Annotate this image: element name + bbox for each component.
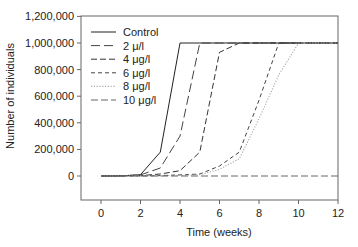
x-tick-label: 8	[256, 207, 262, 219]
y-tick-label: 600,000	[34, 90, 74, 102]
legend-label-1: 2 μ/l	[123, 40, 144, 52]
x-tick-label: 10	[292, 207, 304, 219]
x-tick-label: 0	[98, 207, 104, 219]
y-tick-label: 400,000	[34, 117, 74, 129]
y-tick-label: 1,200,000	[25, 10, 74, 22]
x-tick-label: 12	[332, 207, 344, 219]
legend-label-5: 10 μg/l	[123, 94, 156, 106]
line-chart: 0200,000400,000600,000800,0001,000,0001,…	[0, 0, 358, 247]
y-tick-label: 200,000	[34, 143, 74, 155]
legend-label-2: 4 μg/l	[123, 53, 150, 65]
y-axis-title: Number of individuals	[4, 43, 16, 149]
plot-frame	[81, 16, 338, 200]
legend-label-3: 6 μg/l	[123, 67, 150, 79]
plot-area	[81, 16, 338, 200]
x-tick-label: 6	[216, 207, 222, 219]
legend-label-0: Control	[123, 26, 158, 38]
x-tick-label: 4	[177, 207, 183, 219]
y-axis: 0200,000400,000600,000800,0001,000,0001,…	[25, 10, 81, 182]
legend: Control2 μ/l4 μg/l6 μg/l8 μg/l10 μg/l	[91, 26, 158, 106]
y-tick-label: 800,000	[34, 64, 74, 76]
x-axis: 024681012	[98, 200, 344, 219]
y-tick-label: 0	[68, 170, 74, 182]
y-tick-label: 1,000,000	[25, 37, 74, 49]
legend-label-4: 8 μg/l	[123, 80, 150, 92]
x-tick-label: 2	[137, 207, 143, 219]
x-axis-title: Time (weeks)	[186, 226, 252, 238]
